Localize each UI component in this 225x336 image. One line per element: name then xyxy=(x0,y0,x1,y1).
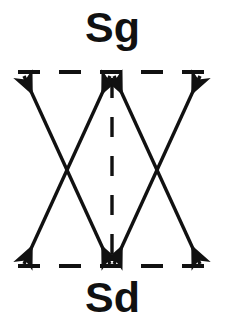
diagram-canvas: Sg Sd xyxy=(0,0,225,336)
state-label-sd: Sd xyxy=(0,276,225,319)
state-label-sg: Sg xyxy=(0,6,225,49)
